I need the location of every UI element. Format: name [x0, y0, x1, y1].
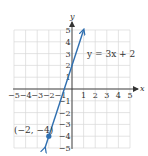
x-tick-label: 1 [81, 91, 86, 100]
x-tick-label: −4 [20, 91, 32, 100]
x-axis-label: x [140, 84, 145, 93]
linear-function-graph: −5−4−3−2−112345−5−4−3−2−112345 y = 3x + … [0, 0, 148, 156]
x-tick-label: 3 [104, 91, 109, 100]
y-axis-label: y [69, 12, 75, 21]
x-tick-label: 4 [116, 91, 121, 100]
x-tick-label: −2 [43, 91, 55, 100]
y-tick-label: 3 [65, 50, 70, 59]
y-tick-label: 4 [65, 38, 70, 47]
y-tick-label: 5 [65, 26, 70, 35]
y-tick-label: −3 [59, 120, 71, 129]
x-tick-label: −3 [31, 91, 43, 100]
y-tick-label: −4 [59, 132, 71, 141]
point-label: (−2, −4) [14, 125, 53, 135]
y-tick-label: −5 [59, 144, 71, 153]
y-tick-label: −2 [59, 109, 71, 118]
equation-label: y = 3x + 2 [86, 49, 135, 59]
x-tick-label: 2 [93, 91, 98, 100]
x-tick-label: 5 [127, 91, 132, 100]
y-tick-label: 2 [65, 61, 70, 70]
x-tick-label: −5 [8, 91, 20, 100]
